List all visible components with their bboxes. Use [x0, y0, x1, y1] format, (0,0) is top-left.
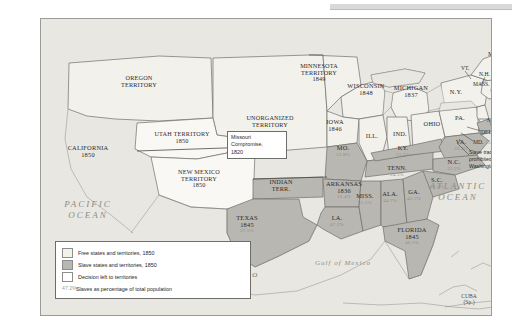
label-louisiana: LA. 47.2%	[325, 215, 349, 227]
legend-label-free: Free states and territories, 1850	[78, 250, 154, 256]
label-illinois: ILL.	[357, 133, 387, 140]
map-plate: .free{fill:#f2f1ec;stroke:#6f6f6c;stroke…	[40, 18, 492, 316]
legend-label-slave: Slave states and territories, 1850	[78, 262, 157, 268]
label-delaware: DEL. 2.5%	[481, 129, 492, 135]
label-maryland: MD. 15.5%	[473, 139, 492, 145]
label-new-hampshire: N.H.	[479, 71, 490, 77]
label-utah-territory: UTAH TERRITORY 1850	[137, 131, 227, 144]
label-kentucky: KY. 21.5%	[389, 145, 417, 157]
label-texas: TEXAS 1845 27.5%	[217, 215, 277, 234]
label-unorganized-territory: UNORGANIZED TERRITORY	[227, 115, 313, 128]
top-divider-rule	[330, 4, 512, 10]
legend-percent-marker: 47.2%	[62, 285, 71, 293]
atlantic-ocean-label: ATLANTIC OCEAN	[419, 181, 492, 204]
legend-row-free: Free states and territories, 1850	[62, 247, 244, 259]
legend-row-slave: Slave states and territories, 1850	[62, 259, 244, 271]
dc-slave-trade-note: Slave trade prohibited in Washington, D.…	[469, 149, 492, 169]
label-vermont: VT.	[461, 65, 469, 71]
legend-swatch-free-icon	[62, 248, 73, 258]
legend-swatch-slave-icon	[62, 260, 73, 270]
label-alabama: ALA. 44.7%	[377, 191, 403, 203]
map-legend: Free states and territories, 1850 Slave …	[55, 241, 251, 299]
label-california: CALIFORNIA 1850	[51, 145, 125, 158]
label-new-jersey: N.J.	[487, 117, 492, 123]
label-massachusetts: MASS.	[473, 81, 490, 87]
missouri-compromise-callout: Missouri Compromise, 1820	[227, 131, 287, 159]
label-minnesota-territory: MINNESOTA TERRITORY 1849	[279, 63, 359, 83]
legend-row-decision: Decision left to territories	[62, 271, 244, 283]
cuba-label: CUBA (Sp.)	[449, 293, 489, 305]
label-maine: ME.	[481, 51, 492, 58]
legend-swatch-decision-icon	[62, 272, 73, 282]
label-ohio: OHIO	[415, 121, 449, 128]
label-north-carolina: N.C. 33.2%	[439, 159, 469, 171]
gulf-of-mexico-label: Gulf of Mexico	[315, 259, 371, 267]
label-indiana: IND.	[385, 131, 415, 138]
label-tennessee: TENN. 24.5%	[377, 165, 417, 177]
legend-label-decision: Decision left to territories	[78, 274, 137, 280]
legend-row-percentage: 47.2% Slaves as percentage of total popu…	[62, 283, 244, 295]
label-new-york: N.Y.	[441, 89, 471, 96]
label-iowa: IOWA 1846	[313, 119, 357, 132]
label-oregon-territory: OREGON TERRITORY	[99, 75, 179, 88]
label-michigan: MICHIGAN 1837	[383, 85, 439, 98]
label-new-mexico-territory: NEW MEXICO TERRITORY 1850	[159, 169, 239, 189]
label-missouri: MO. 12.8%	[327, 145, 359, 157]
label-mississippi: MISS. 51.1%	[351, 193, 379, 205]
pacific-ocean-label: PACIFIC OCEAN	[51, 199, 125, 222]
label-florida: FLORIDA 1845 46.5%	[385, 227, 439, 246]
legend-label-percentage: Slaves as percentage of total population	[76, 286, 172, 292]
label-pennsylvania: PA.	[447, 115, 473, 122]
map-screenshot: .free{fill:#f2f1ec;stroke:#6f6f6c;stroke…	[0, 0, 516, 331]
label-indian-territory: INDIAN TERR.	[253, 179, 309, 192]
